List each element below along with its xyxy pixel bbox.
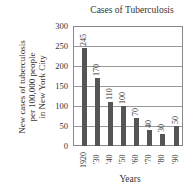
plot-area [73, 26, 183, 146]
x-tick-label: 1920 [79, 152, 88, 168]
bar-value-label: 50 [171, 116, 180, 124]
y-tick-50: 50 [46, 121, 68, 131]
bar-value-label: 70 [131, 108, 140, 116]
bar [121, 106, 126, 146]
gridline [74, 86, 182, 87]
x-tick-label: '30 [92, 154, 101, 163]
bar [108, 102, 113, 146]
bar-value-label: 30 [157, 124, 166, 132]
y-tick-100: 100 [46, 101, 68, 111]
bar [134, 118, 139, 146]
bar [82, 48, 87, 146]
y-tick-0: 0 [46, 141, 68, 151]
bar-value-label: 100 [118, 92, 127, 104]
y-axis-label-line-1: New cases of tuberculosis [17, 40, 27, 134]
bar-value-label: 245 [79, 34, 88, 46]
y-tick-200: 200 [46, 61, 68, 71]
y-tick-300: 300 [46, 21, 68, 31]
bar [174, 126, 179, 146]
y-tick-250: 250 [46, 41, 68, 51]
x-tick-label: '80 [157, 154, 166, 163]
gridline [74, 66, 182, 67]
bar-value-label: 170 [92, 64, 101, 76]
bar-value-label: 40 [144, 120, 153, 128]
bar-value-label: 110 [105, 88, 114, 100]
x-tick-label: '60 [131, 154, 140, 163]
x-tick-label: '50 [118, 154, 127, 163]
x-tick-label: '90 [171, 154, 180, 163]
y-tick-150: 150 [46, 81, 68, 91]
bar [147, 130, 152, 146]
bar [95, 78, 100, 146]
gridline [74, 46, 182, 47]
x-tick-label: '70 [144, 154, 153, 163]
x-tick-label: '40 [105, 154, 114, 163]
chart-title: Cases of Tuberculosis [70, 5, 194, 15]
y-axis-label-line-2: per 100,000 people [27, 40, 37, 134]
gridline [74, 106, 182, 107]
bar [160, 134, 165, 146]
x-axis-label: Years [90, 174, 170, 184]
